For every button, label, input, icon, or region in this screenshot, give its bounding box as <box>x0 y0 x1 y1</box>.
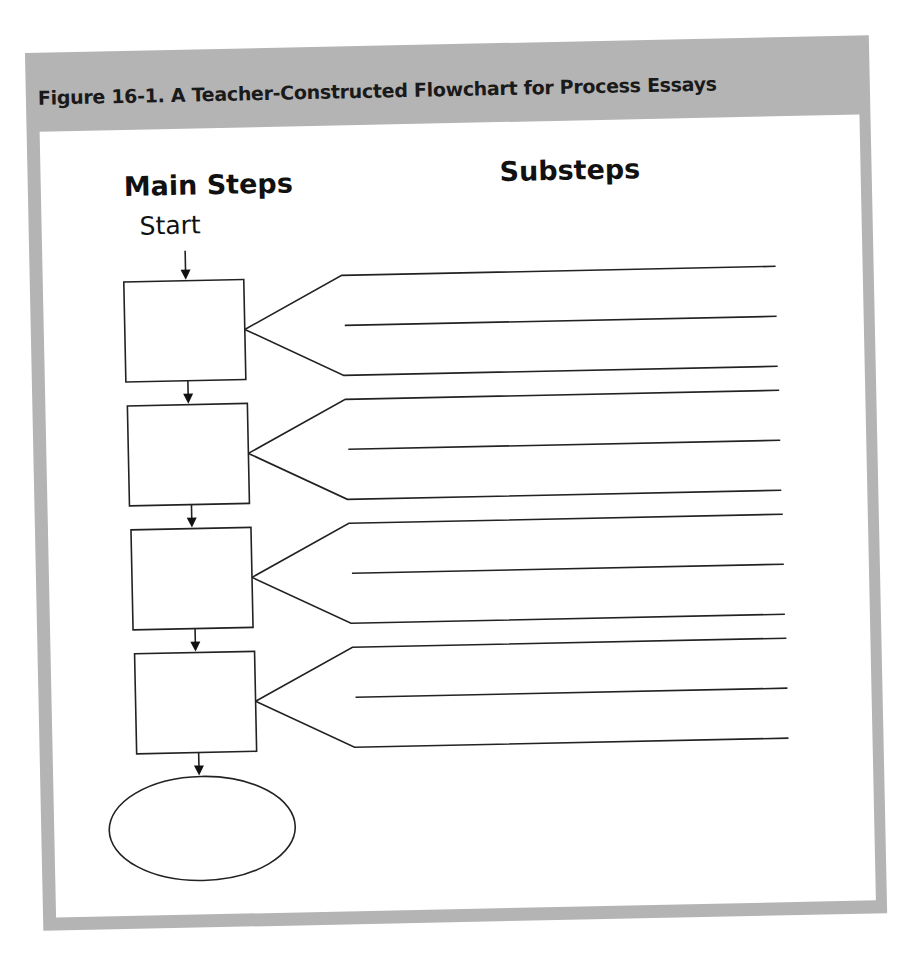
main-step-box[interactable] <box>124 279 246 381</box>
start-label: Start <box>139 210 201 240</box>
main-step-box[interactable] <box>131 527 253 629</box>
main-step-box[interactable] <box>135 651 257 753</box>
main-steps-heading: Main Steps <box>123 167 293 202</box>
flowchart-figure: Figure 16-1. A Teacher-Constructed Flowc… <box>0 0 918 964</box>
substeps-heading: Substeps <box>499 153 640 187</box>
main-step-box[interactable] <box>127 403 249 505</box>
